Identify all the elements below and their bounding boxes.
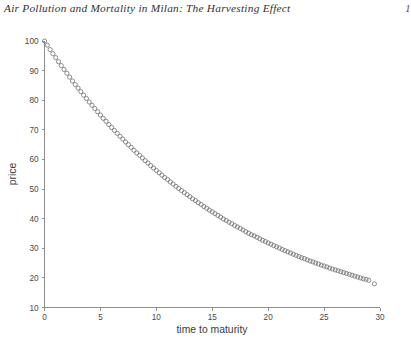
x-tick-label: 15 xyxy=(208,313,218,322)
y-tick-label: 70 xyxy=(29,126,39,135)
data-point xyxy=(149,164,153,168)
data-point xyxy=(56,60,60,64)
data-point xyxy=(135,151,139,155)
data-point xyxy=(322,264,326,268)
y-axis-title: price xyxy=(7,163,18,186)
data-point xyxy=(356,275,360,279)
y-tick-label: 30 xyxy=(29,244,39,253)
data-point xyxy=(51,52,55,56)
x-tick-label: 20 xyxy=(264,313,274,322)
x-tick-label: 25 xyxy=(320,313,330,322)
price-vs-maturity-chart: 102030405060708090100 051015202530 time … xyxy=(0,22,411,361)
y-tick-label: 100 xyxy=(25,37,39,46)
data-point xyxy=(65,71,69,75)
figure-container: 102030405060708090100 051015202530 time … xyxy=(0,22,411,361)
data-point xyxy=(372,282,376,286)
x-tick-label: 0 xyxy=(42,313,47,322)
data-point xyxy=(160,173,164,177)
data-point xyxy=(157,171,161,175)
header-title: Air Pollution and Mortality in Milan: Th… xyxy=(4,2,290,14)
x-tick-label: 10 xyxy=(152,313,162,322)
data-point xyxy=(342,270,346,274)
data-point xyxy=(339,270,343,274)
running-header: Air Pollution and Mortality in Milan: Th… xyxy=(0,0,411,22)
y-tick-label: 40 xyxy=(29,215,39,224)
data-point xyxy=(54,55,58,59)
data-point xyxy=(154,168,158,172)
data-point xyxy=(62,67,66,71)
data-point xyxy=(336,269,340,273)
y-tick-label: 80 xyxy=(29,96,39,105)
x-tick-label: 30 xyxy=(375,313,385,322)
data-point xyxy=(364,277,368,281)
data-point xyxy=(143,159,147,163)
y-tick-label: 60 xyxy=(29,155,39,164)
data-point xyxy=(45,43,49,47)
data-point xyxy=(59,63,63,67)
data-point xyxy=(347,272,351,276)
y-tick-label: 50 xyxy=(29,185,39,194)
data-point xyxy=(151,166,155,170)
x-axis-ticks: 051015202530 xyxy=(42,308,385,322)
y-tick-label: 90 xyxy=(29,67,39,76)
page-number: 1 xyxy=(405,2,410,14)
data-point xyxy=(333,268,337,272)
data-point xyxy=(330,267,334,271)
data-point xyxy=(358,276,362,280)
data-point xyxy=(350,273,354,277)
x-tick-label: 5 xyxy=(98,313,103,322)
data-series-markers xyxy=(42,39,376,286)
data-point xyxy=(68,75,72,79)
data-point xyxy=(367,278,371,282)
y-tick-label: 10 xyxy=(29,304,39,313)
y-axis-ticks: 102030405060708090100 xyxy=(25,37,45,313)
data-point xyxy=(48,47,52,51)
x-axis-title: time to maturity xyxy=(176,324,248,335)
data-point xyxy=(344,271,348,275)
data-point xyxy=(353,274,357,278)
y-tick-label: 20 xyxy=(29,274,39,283)
